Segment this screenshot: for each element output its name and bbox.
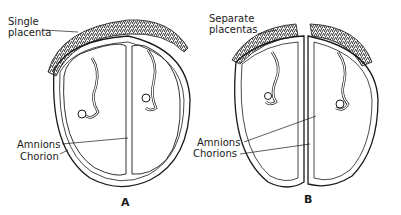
separate-placentas-label: Separate placentas: [209, 13, 258, 35]
panel-b-drawing: [232, 24, 378, 187]
separate-placenta-right: [310, 24, 372, 66]
single-placenta: [48, 20, 188, 76]
amnions-label-a: Amnions: [17, 139, 60, 150]
diagram-drawing: [0, 0, 401, 215]
twin-placentation-diagram: Single placenta Amnions Chorion A Separa…: [0, 0, 401, 215]
panel-letter-b: B: [304, 193, 312, 206]
panel-a-drawing: [44, 20, 190, 187]
chorions-label-b: Chorions: [193, 148, 237, 159]
placenta-label-line1: Single: [8, 16, 51, 27]
chorion-label-a: Chorion: [20, 151, 59, 162]
panel-letter-a: A: [121, 196, 130, 209]
placenta-label-line2: placenta: [8, 27, 51, 38]
amnions-label-b: Amnions: [197, 137, 240, 148]
placenta-label-line2: placentas: [209, 24, 258, 35]
single-placenta-label: Single placenta: [8, 16, 51, 38]
placenta-label-line1: Separate: [209, 13, 258, 24]
